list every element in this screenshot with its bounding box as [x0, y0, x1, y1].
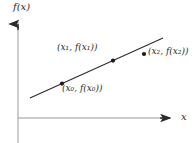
plot-svg	[0, 0, 196, 143]
data-point-x1	[111, 59, 115, 63]
point-label-x1: (x₁, f(x₁))	[57, 43, 97, 52]
data-point-x2	[142, 52, 146, 56]
figure-canvas: f(x) x (x₀, f(x₀)) (x₁, f(x₁)) (x₂, f(x₂…	[0, 0, 196, 143]
y-axis-label: f(x)	[13, 2, 30, 12]
point-label-x2: (x₂, f(x₂))	[148, 47, 188, 56]
x-axis-label: x	[181, 112, 187, 122]
point-label-x0: (x₀, f(x₀))	[62, 84, 102, 93]
